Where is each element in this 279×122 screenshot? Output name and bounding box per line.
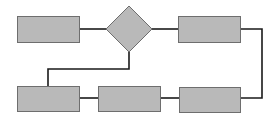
- box-top-right-process-node: [179, 17, 241, 43]
- box-bottom-right-process-node: [180, 88, 241, 113]
- box-bottom-middle-process-node: [99, 87, 161, 112]
- box-bottom-left-process-node: [18, 87, 80, 112]
- flowchart-canvas: [0, 0, 279, 122]
- edge-decision-bottomleft: [48, 52, 129, 86]
- box-top-left-process-node: [18, 17, 80, 43]
- decision-decision-node: [106, 6, 152, 52]
- flowchart-diagram: [0, 0, 279, 122]
- edge-box2-bottomright: [240, 29, 262, 98]
